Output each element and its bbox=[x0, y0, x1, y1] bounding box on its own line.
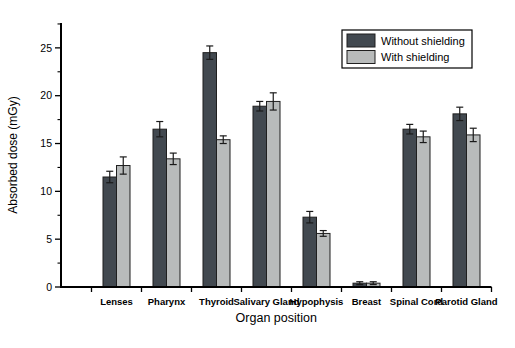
legend-swatch-without-shielding bbox=[347, 34, 375, 47]
bar-with-shielding-2 bbox=[217, 140, 231, 287]
bar-without-shielding-6 bbox=[403, 129, 417, 287]
chart-svg: 0510152025LensesPharynxThyroidSalivary G… bbox=[0, 0, 515, 348]
bar-without-shielding-1 bbox=[153, 129, 167, 287]
category-label-1: Pharynx bbox=[148, 296, 186, 307]
legend-swatch-with-shielding bbox=[347, 51, 375, 64]
bar-without-shielding-4 bbox=[303, 217, 317, 287]
legend-label-without-shielding: Without shielding bbox=[381, 35, 465, 47]
bar-without-shielding-2 bbox=[203, 53, 217, 287]
y-tick-label: 15 bbox=[40, 137, 52, 149]
bars-layer bbox=[103, 53, 480, 287]
bar-with-shielding-7 bbox=[467, 135, 481, 287]
category-label-2: Thyroid bbox=[199, 296, 234, 307]
figure: 0510152025LensesPharynxThyroidSalivary G… bbox=[0, 0, 515, 348]
y-tick-label: 5 bbox=[46, 233, 52, 245]
category-label-5: Breast bbox=[352, 296, 382, 307]
category-label-0: Lenses bbox=[100, 296, 133, 307]
x-axis-title: Organ position bbox=[236, 311, 317, 325]
bar-with-shielding-3 bbox=[267, 101, 281, 287]
y-tick-label: 25 bbox=[40, 42, 52, 54]
category-label-4: Hypophysis bbox=[290, 296, 344, 307]
bar-with-shielding-1 bbox=[167, 159, 181, 287]
y-tick-label: 20 bbox=[40, 89, 52, 101]
bar-without-shielding-0 bbox=[103, 177, 117, 287]
y-tick-label: 0 bbox=[46, 281, 52, 293]
y-tick-label: 10 bbox=[40, 185, 52, 197]
bar-without-shielding-7 bbox=[453, 114, 467, 287]
category-label-7: Parotid Gland bbox=[435, 296, 497, 307]
bar-with-shielding-0 bbox=[117, 166, 131, 287]
bar-with-shielding-6 bbox=[417, 137, 431, 287]
legend-label-with-shielding: With shielding bbox=[381, 51, 449, 63]
bar-without-shielding-3 bbox=[253, 106, 267, 287]
legend: Without shieldingWith shielding bbox=[342, 30, 472, 68]
y-axis-title: Absorbed dose (mGy) bbox=[6, 96, 20, 213]
bar-with-shielding-4 bbox=[317, 233, 331, 287]
